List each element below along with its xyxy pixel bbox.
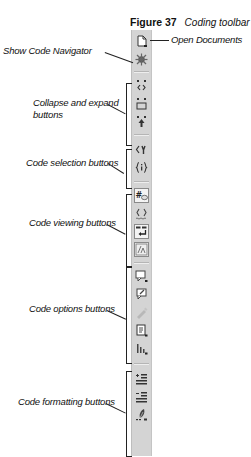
collapse-full-tag-icon	[135, 79, 148, 92]
toolbar-separator	[134, 134, 149, 136]
outdent-code-button[interactable]	[134, 389, 149, 404]
apply-comment-button[interactable]	[134, 269, 149, 284]
callout-collapse-expand: Collapse and expand buttons	[33, 97, 118, 121]
leader-line	[150, 40, 169, 41]
collapse-full-tag-button[interactable]	[134, 78, 149, 93]
line-numbers-button[interactable]: #	[134, 188, 149, 203]
callout-code-options: Code options buttons	[29, 303, 115, 315]
outdent-code-icon	[135, 390, 148, 403]
leader-line	[105, 52, 134, 63]
bracket-code-viewing	[126, 194, 132, 267]
balance-braces-icon	[135, 161, 148, 174]
bracket-code-options	[126, 267, 132, 364]
bracket-collapse-expand	[126, 83, 132, 146]
expand-all-icon	[135, 115, 148, 128]
select-parent-tag-button[interactable]	[134, 142, 149, 157]
format-source-code-icon	[135, 408, 148, 421]
leader-line	[107, 224, 126, 235]
callout-code-selection: Code selection buttons	[26, 157, 118, 169]
word-wrap-icon	[135, 225, 148, 238]
expand-all-button[interactable]	[134, 114, 149, 129]
bracket-code-selection	[126, 149, 132, 189]
indent-code-icon	[135, 372, 148, 385]
callout-open-documents: Open Documents	[171, 34, 242, 46]
show-code-navigator-icon	[135, 53, 148, 66]
collapse-selection-icon	[135, 97, 148, 110]
toolbar-separator	[134, 181, 149, 183]
coding-toolbar: #	[131, 30, 152, 456]
highlight-invalid-code-icon	[135, 207, 148, 220]
figure-title: Coding toolbar	[185, 17, 250, 28]
highlight-invalid-code-button[interactable]	[134, 206, 149, 221]
remove-comment-button[interactable]	[134, 287, 149, 302]
syntax-coloring-button[interactable]	[134, 242, 149, 257]
open-documents-button[interactable]	[134, 34, 149, 49]
balance-braces-button[interactable]	[134, 160, 149, 175]
leader-line	[106, 403, 126, 414]
wrap-tag-button	[134, 305, 149, 320]
move-css-icon	[135, 342, 148, 355]
callout-collapse-expand-line1: Collapse and expand	[33, 97, 118, 109]
syntax-coloring-icon	[135, 243, 148, 256]
callout-show-code-navigator: Show Code Navigator	[3, 45, 92, 57]
figure-caption: Figure 37 Coding toolbar	[130, 16, 250, 28]
bracket-code-formatting	[126, 371, 132, 457]
toolbar-separator	[134, 71, 149, 73]
open-documents-icon	[135, 35, 148, 48]
line-numbers-icon: #	[135, 189, 148, 202]
indent-code-button[interactable]	[134, 371, 149, 386]
apply-comment-icon	[135, 270, 148, 283]
callout-collapse-expand-line2: buttons	[33, 109, 118, 121]
remove-comment-icon	[135, 288, 148, 301]
select-parent-tag-icon	[135, 143, 148, 156]
move-css-button[interactable]	[134, 341, 149, 356]
recent-snippets-icon	[135, 324, 148, 337]
callout-code-viewing: Code viewing buttons	[29, 217, 116, 229]
show-code-navigator-button[interactable]	[134, 52, 149, 67]
wrap-tag-icon	[135, 306, 148, 319]
toolbar-separator	[134, 262, 149, 264]
format-source-code-button[interactable]	[134, 407, 149, 422]
collapse-selection-button[interactable]	[134, 96, 149, 111]
recent-snippets-button[interactable]	[134, 323, 149, 338]
figure-number: Figure 37	[130, 16, 177, 28]
toolbar-separator	[134, 363, 149, 365]
word-wrap-button[interactable]	[134, 224, 149, 239]
callout-code-formatting: Code formatting buttons	[18, 396, 115, 408]
